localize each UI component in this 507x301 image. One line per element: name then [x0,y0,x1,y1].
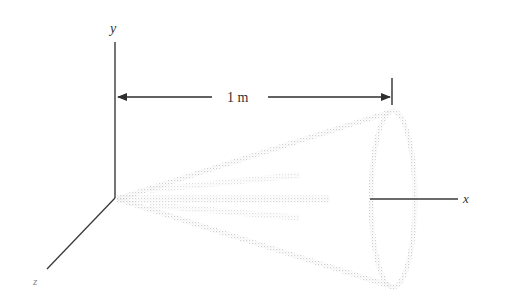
y-axis-label: y [108,21,117,36]
z-axis-label: z [32,275,38,287]
x-axis-label: x [462,191,469,206]
z-axis [47,198,115,269]
dimension-label: 1 m [227,90,249,105]
cone-diagram: y x z 1 m [0,0,507,301]
